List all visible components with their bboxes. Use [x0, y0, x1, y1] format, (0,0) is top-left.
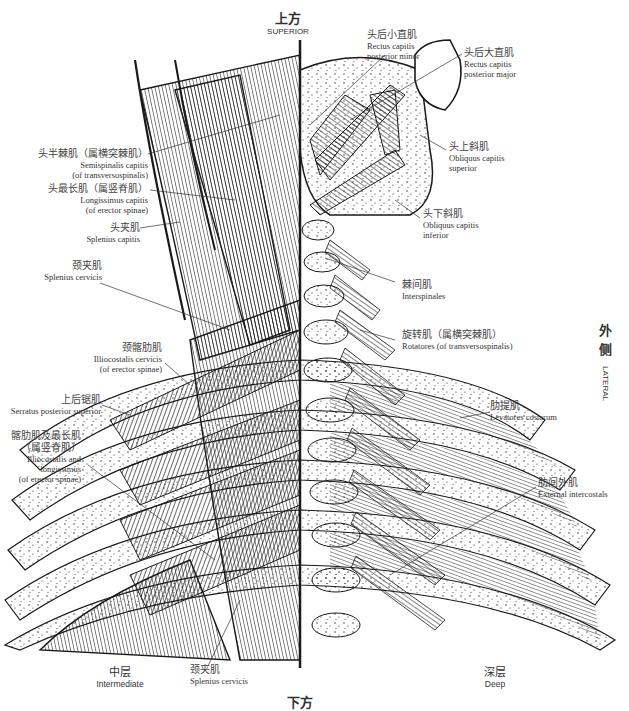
layer-intermediate: 中层 Intermediate	[85, 663, 155, 689]
label-levatores-costarum: 肋提肌 Levatores costarum	[490, 400, 557, 422]
layer-intermediate-en: Intermediate	[85, 679, 155, 689]
label-rotatores: 旋转肌（属横突棘肌） Rotatores (of transversospina…	[402, 329, 512, 351]
direction-inferior-zh: 下方	[270, 692, 330, 711]
layer-deep: 深层 Deep	[460, 663, 530, 689]
direction-superior: 上方 SUPERIOR	[258, 8, 318, 36]
label-semispinalis-capitis: 头半棘肌（属横突棘肌） Semispinalis capitis (of tra…	[38, 148, 148, 180]
direction-lateral: 外 侧 LATERAL	[590, 320, 620, 401]
direction-lateral-zh-2: 侧	[590, 339, 620, 358]
label-obliquus-capitis-inferior: 头下斜肌 Obliquus capitis inferior	[423, 208, 478, 240]
label-splenius-cervicis-lower: 颈夹肌 Splenius cervicis	[190, 664, 248, 686]
label-interspinales: 棘间肌 Interspinales	[402, 279, 445, 301]
layer-intermediate-zh: 中层	[85, 663, 155, 679]
label-splenius-cervicis-upper: 颈夹肌 Splenius cervicis	[44, 260, 102, 282]
label-longissimus-capitis: 头最长肌（属竖脊肌） Longissimus capitis (of erect…	[48, 183, 148, 215]
direction-superior-zh: 上方	[258, 8, 318, 27]
label-rectus-capitis-posterior-major: 头后大直肌 Rectus capitis posterior major	[464, 47, 516, 79]
label-obliquus-capitis-superior: 头上斜肌 Obliquus capitis superior	[449, 141, 504, 173]
direction-superior-en: SUPERIOR	[258, 27, 318, 36]
layer-deep-zh: 深层	[460, 663, 530, 679]
label-serratus-posterior-superior: 上后锯肌 Serratus posterior superior	[11, 394, 101, 416]
layer-deep-en: Deep	[460, 679, 530, 689]
direction-inferior: 下方	[270, 692, 330, 711]
label-iliocostalis-cervicis: 颈髂肋肌 Illiocostalis cervicis (of erector …	[94, 342, 162, 374]
label-iliocostalis-longissimus: 髂肋肌及最长肌 （属竖脊肌） Illiocostalis and longiss…	[11, 430, 81, 484]
label-external-intercostals: 肋间外肌 External intercostals	[538, 477, 608, 499]
label-rectus-capitis-posterior-minor: 头后小直肌 Rectus capitis posterior minor	[367, 29, 420, 61]
direction-lateral-zh-1: 外	[590, 320, 620, 339]
direction-lateral-en: LATERAL	[601, 366, 610, 401]
label-splenius-capitis: 头夹肌 Splenius capitis	[86, 222, 140, 244]
